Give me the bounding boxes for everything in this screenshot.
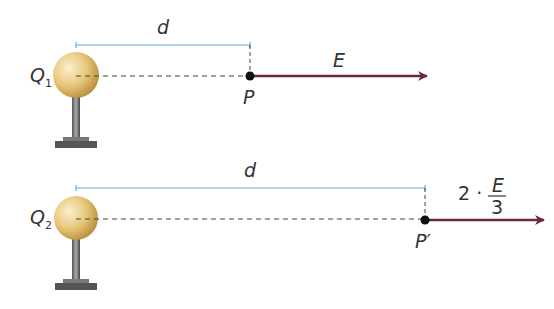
label-distance-top: d <box>157 16 170 38</box>
point-p <box>246 72 255 81</box>
charge-q2-sphere <box>54 196 98 240</box>
bottom-scene: Q2 d P′ 2 · E 3 <box>30 159 544 290</box>
charge-q2-stand <box>55 239 97 290</box>
label-field-e: E <box>333 49 345 71</box>
label-field-numerator: E <box>492 174 504 196</box>
point-p-prime <box>421 216 430 225</box>
label-q2: Q2 <box>30 206 52 232</box>
top-scene: Q1 d P E <box>30 16 427 148</box>
label-field-coefficient: 2 · <box>458 182 482 204</box>
charge-q1-stand <box>55 97 97 148</box>
label-q1: Q1 <box>30 64 52 90</box>
electric-field-diagram: Q1 d P E Q2 d P′ 2 · E 3 <box>0 0 554 309</box>
label-point-p: P <box>243 86 255 108</box>
charge-q1-sphere <box>53 52 99 98</box>
label-field-denominator: 3 <box>491 196 503 218</box>
label-point-p-prime: P′ <box>415 230 431 252</box>
label-distance-bottom: d <box>244 159 257 181</box>
